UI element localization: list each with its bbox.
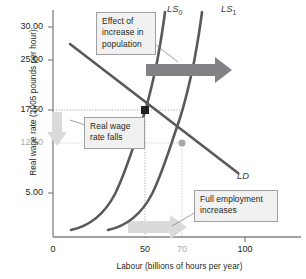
y-axis-title: Real wage rate (2005 pounds per hour) xyxy=(29,8,38,198)
curve-label-ls0-subscript: 0 xyxy=(178,9,182,16)
x-tick-label-0: 0 xyxy=(33,244,73,254)
curve-ld xyxy=(70,44,238,173)
x-tick-label-100: 100 xyxy=(225,244,265,254)
employment-rises-arrow xyxy=(128,215,187,239)
x-tick-label-70: 70 xyxy=(162,244,202,254)
callout-full-employment-increases: Full employment increases xyxy=(194,190,278,222)
curve-label-ls0: LS0 xyxy=(167,3,182,16)
curve-label-ls1: LS1 xyxy=(221,3,236,16)
curve-label-ls0-text: LS xyxy=(167,3,178,14)
x-axis-title: Labour (billions of hours per year) xyxy=(53,262,306,271)
new-equilibrium-marker xyxy=(178,139,185,146)
callout-real-wage-rate-falls: Real wage rate falls xyxy=(84,117,145,149)
callout-effect-of-increase-in-population: Effect of increase in population xyxy=(96,12,156,55)
x-tick-label-50: 50 xyxy=(125,244,165,254)
curve-label-ls1-subscript: 1 xyxy=(232,9,236,16)
curve-label-ls1-text: LS xyxy=(221,3,232,14)
leader-wage xyxy=(70,120,85,125)
curve-label-ld: LD xyxy=(237,170,249,181)
initial-equilibrium-marker xyxy=(141,106,149,114)
labour-market-chart: 30.00 25.00 17.50 12.50 5.00 0 50 70 100… xyxy=(0,0,306,279)
wage-falls-arrow xyxy=(47,112,67,146)
